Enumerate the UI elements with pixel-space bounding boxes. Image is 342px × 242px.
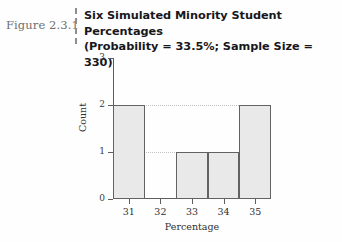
x-tick-35 — [255, 199, 256, 204]
x-tick-label-33: 33 — [177, 206, 207, 217]
y-tick-label-2: 2 — [99, 99, 105, 109]
x-tick-34 — [224, 199, 225, 204]
y-tick-label-3: 3 — [99, 52, 105, 62]
y-tick-3: 3 — [108, 58, 113, 59]
x-axis-title: Percentage — [113, 221, 271, 232]
x-tick-32 — [160, 199, 161, 204]
y-tick-1: 1 — [108, 152, 113, 153]
bars-group — [113, 58, 271, 199]
figure-container: Figure 2.3.1 Six Simulated Minority Stud… — [0, 0, 342, 242]
x-tick-31 — [129, 199, 130, 204]
x-tick-label-31: 31 — [114, 206, 144, 217]
bar-35 — [239, 105, 271, 199]
bar-34 — [208, 152, 240, 199]
y-tick-label-0: 0 — [99, 193, 105, 203]
x-tick-33 — [192, 199, 193, 204]
x-tick-label-35: 35 — [240, 206, 270, 217]
y-tick-2: 2 — [108, 105, 113, 106]
histogram-chart: 0123 3132333435 Percentage Count — [0, 0, 342, 242]
bar-33 — [176, 152, 208, 199]
y-tick-0: 0 — [108, 199, 113, 200]
y-axis-title: Count — [77, 98, 88, 138]
x-tick-label-34: 34 — [209, 206, 239, 217]
x-tick-label-32: 32 — [145, 206, 175, 217]
y-tick-label-1: 1 — [99, 146, 105, 156]
bar-31 — [113, 105, 145, 199]
